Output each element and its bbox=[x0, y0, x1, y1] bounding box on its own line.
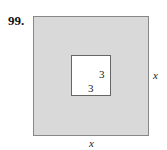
problem-number: 99. bbox=[8, 13, 24, 29]
outer-side-label-bottom: x bbox=[89, 137, 94, 149]
inner-side-label-bottom: 3 bbox=[88, 82, 94, 94]
inner-side-label-right: 3 bbox=[99, 68, 105, 80]
outer-side-label-right: x bbox=[153, 69, 158, 81]
